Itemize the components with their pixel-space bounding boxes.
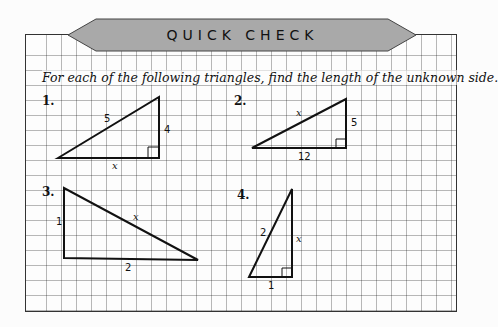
problem-4-number: 4. <box>237 188 250 202</box>
problem-3-hypotenuse-label: x <box>133 211 139 222</box>
problem-4-horizontal-label: 1 <box>268 280 274 291</box>
problem-1-vertical-label: 4 <box>164 124 170 135</box>
problem-2-hypotenuse-label: x <box>296 107 302 118</box>
triangle-1 <box>58 97 159 158</box>
problem-3-horizontal-label: 2 <box>125 262 131 273</box>
problem-2-vertical-label: 5 <box>351 117 357 128</box>
problem-3-number: 3. <box>42 185 55 199</box>
problem-2-horizontal-label: 12 <box>298 151 311 162</box>
problem-1-horizontal-label: x <box>112 160 118 171</box>
problem-1-hypotenuse-label: 5 <box>104 113 110 124</box>
problem-2-number: 2. <box>234 94 247 108</box>
triangle-3 <box>64 188 198 260</box>
triangle-4 <box>249 189 292 277</box>
problem-3-vertical-label: 1 <box>56 216 62 227</box>
problem-4-vertical-label: x <box>296 233 302 244</box>
problem-4-hypotenuse-label: 2 <box>260 227 266 238</box>
problem-1-number: 1. <box>42 94 55 108</box>
